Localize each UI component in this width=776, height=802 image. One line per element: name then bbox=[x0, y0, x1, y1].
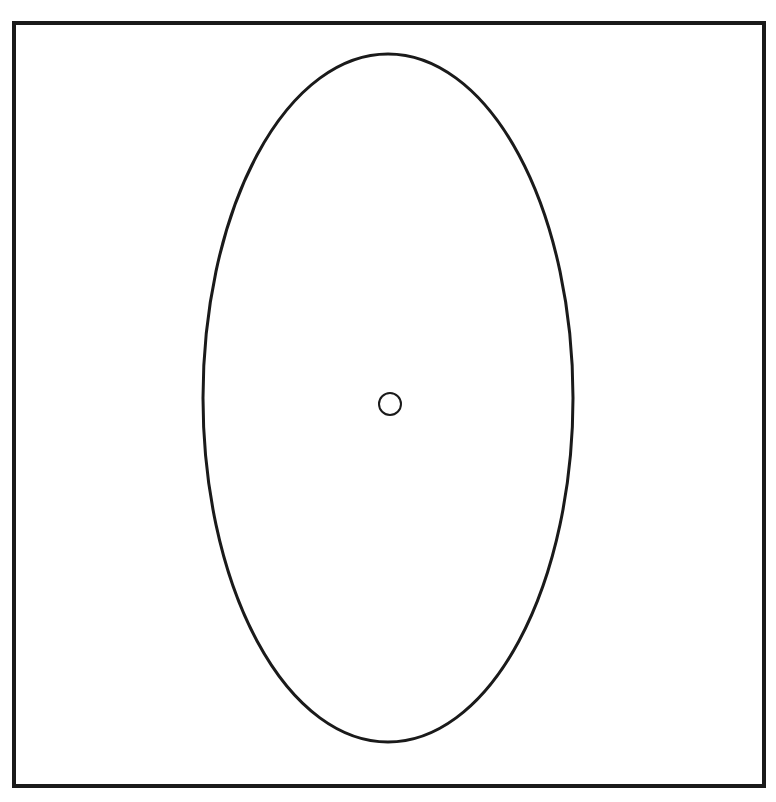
large-ellipse bbox=[203, 54, 573, 742]
diagram-canvas bbox=[0, 0, 776, 802]
outer-frame bbox=[14, 23, 764, 786]
center-circle bbox=[379, 393, 401, 415]
